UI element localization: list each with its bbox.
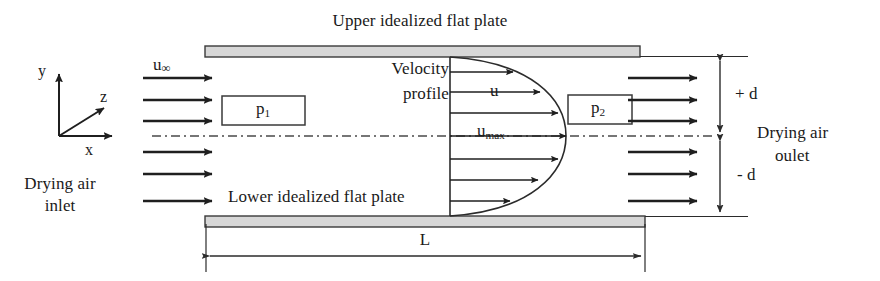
- u-infinity-subscript: ∞: [162, 61, 171, 75]
- u-max-subscript: max: [486, 129, 505, 141]
- channel-extension-lines: [640, 57, 748, 217]
- pressure-2-base: p: [591, 98, 600, 117]
- pressure-2-label: p2: [591, 99, 605, 118]
- minus-d-label: - d: [737, 166, 756, 184]
- lower-plate-bar: [205, 216, 645, 227]
- inlet-label-line2: inlet: [45, 197, 76, 215]
- lower-plate-label: Lower idealized flat plate: [228, 188, 405, 206]
- inlet-flow-arrows: [143, 78, 212, 201]
- axis-z-label: z: [100, 88, 107, 105]
- inlet-label-line1: Drying air: [24, 175, 95, 193]
- axis-y-label: y: [38, 62, 46, 79]
- plus-d-label: + d: [735, 85, 758, 103]
- upper-plate-bar: [205, 46, 640, 57]
- outlet-label-line2: oulet: [775, 147, 810, 165]
- flat-plate-channel-diagram: Upper idealized flat plate Lower idealiz…: [0, 0, 880, 281]
- pressure-2-subscript: 2: [600, 106, 606, 118]
- velocity-profile-arrows: [450, 72, 566, 201]
- velocity-profile-label-line2: profile: [403, 85, 449, 103]
- u-infinity-base: u: [153, 55, 162, 74]
- u-max-base: u: [477, 121, 486, 140]
- pressure-1-label: p1: [256, 100, 270, 119]
- diagram-canvas: [0, 0, 880, 281]
- pressure-1-base: p: [256, 99, 265, 118]
- axis-x-label: x: [85, 141, 93, 158]
- upper-plate-label: Upper idealized flat plate: [333, 12, 508, 30]
- u-infinity-label: u∞: [153, 56, 170, 75]
- velocity-profile-label-line1: Velocity: [392, 60, 449, 78]
- u-local-label: u: [490, 82, 499, 100]
- length-label: L: [420, 231, 430, 249]
- u-max-label: umax: [477, 122, 505, 141]
- pressure-1-subscript: 1: [265, 107, 271, 119]
- axis-z-arrow: [59, 108, 104, 136]
- outlet-flow-arrows: [628, 78, 697, 201]
- outlet-label-line1: Drying air: [757, 124, 828, 142]
